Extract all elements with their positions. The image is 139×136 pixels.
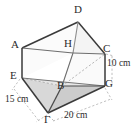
dimension-label-depth: 15 cm — [5, 94, 28, 104]
dimension-label-height: 10 cm — [107, 58, 130, 68]
vertex-label-h: H — [64, 38, 72, 49]
geometry-figure: A D H C E B G Γ 10 cm 15 cm 20 cm — [0, 0, 139, 136]
face-inner-back — [62, 53, 105, 86]
dim-extension-c-right — [106, 54, 114, 56]
vertex-label-b: B — [57, 80, 64, 91]
vertex-label-a: A — [11, 39, 19, 50]
vertex-label-e: E — [10, 70, 17, 81]
dimension-label-width: 20 cm — [64, 110, 87, 120]
vertex-label-gamma: Γ — [44, 114, 50, 125]
dim-extension-g-down — [105, 88, 112, 100]
vertex-label-g: G — [105, 78, 113, 89]
vertex-label-d: D — [74, 4, 82, 15]
vertex-label-c: C — [103, 43, 110, 54]
